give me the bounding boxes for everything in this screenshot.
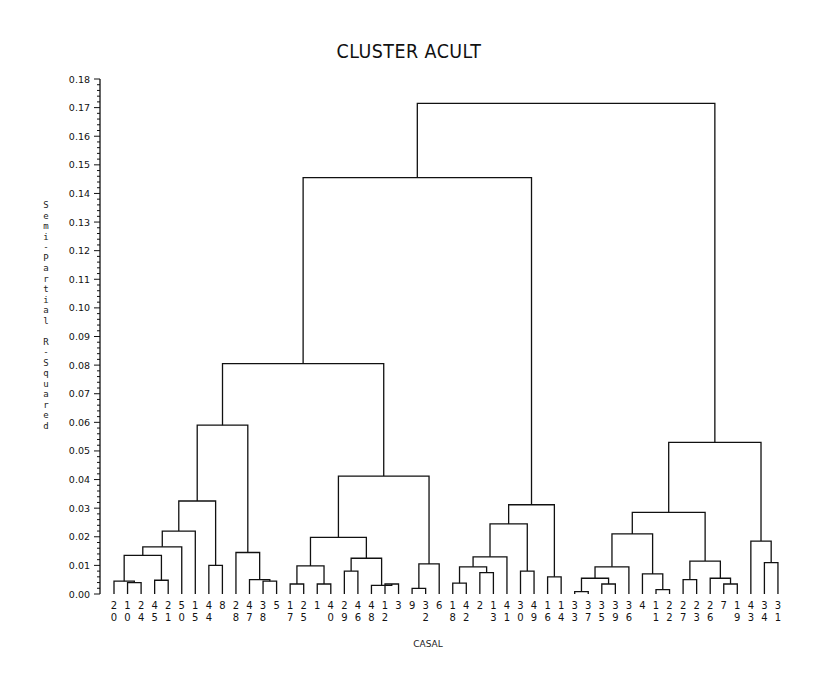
leaf-label: 2	[233, 600, 239, 611]
branch-e5	[656, 590, 670, 594]
branch-c9	[412, 588, 426, 594]
leaf-label: 4	[761, 612, 767, 623]
leaf-label: 4	[463, 600, 469, 611]
branch-g1	[764, 563, 778, 594]
branch-d5	[490, 524, 527, 571]
leaf-label: 8	[368, 612, 374, 623]
branch-c2	[317, 584, 331, 594]
leaf-label: 3	[775, 600, 781, 611]
leaf-label: 3	[490, 612, 496, 623]
branch-a5	[143, 547, 182, 594]
leaf-label: 3	[260, 600, 266, 611]
y-tick-label: 0.17	[69, 102, 90, 113]
leaf-label: 3	[422, 600, 428, 611]
leaf-label: 1	[165, 612, 171, 623]
leaf-label: 6	[544, 612, 550, 623]
leaf-label: 0	[124, 612, 130, 623]
leaf-label: 9	[612, 612, 618, 623]
y-tick-label: 0.01	[69, 560, 90, 571]
y-tick-label: 0.02	[69, 531, 90, 542]
leaf-label: 2	[341, 600, 347, 611]
y-tick-label: 0.16	[69, 131, 90, 142]
branch-a1	[128, 583, 142, 594]
leaf-label: 1	[124, 600, 130, 611]
leaf-label: 4	[748, 600, 754, 611]
leaf-label: 4	[368, 600, 374, 611]
branch-c1	[290, 584, 304, 594]
branch-a7	[209, 565, 223, 594]
leaf-label: 3	[626, 600, 632, 611]
branch-b1	[263, 581, 277, 594]
leaf-label: 4	[328, 600, 334, 611]
leaf-label: 9	[531, 612, 537, 623]
branch-a6	[162, 531, 195, 594]
branch-f2	[724, 584, 738, 594]
leaf-label: 2	[301, 600, 307, 611]
leaf-label: 3	[585, 600, 591, 611]
leaf-label: 2	[477, 600, 483, 611]
leaf-label: 4	[151, 600, 157, 611]
branch-a3	[155, 580, 169, 594]
leaf-label: 4	[246, 600, 252, 611]
leaf-label: 3	[612, 600, 618, 611]
leaf-labels: 2010244521501544828473851725140294648123…	[111, 600, 781, 623]
y-tick-label: 0.07	[69, 388, 90, 399]
leaf-label: 1	[558, 600, 564, 611]
leaf-label: 8	[450, 612, 456, 623]
y-tick-label: 0.13	[69, 217, 90, 228]
leaf-label: 5	[301, 612, 307, 623]
dendrogram-plot: 0.000.010.020.030.040.050.060.070.080.09…	[0, 0, 818, 684]
branch-g2	[751, 541, 771, 594]
leaf-label: 7	[246, 612, 252, 623]
leaf-label: 7	[680, 612, 686, 623]
leaf-label: 6	[707, 612, 713, 623]
leaf-label: 2	[666, 600, 672, 611]
leaf-label: 3	[761, 600, 767, 611]
leaf-label: 3	[599, 600, 605, 611]
leaf-label: 2	[422, 612, 428, 623]
leaf-label: 5	[151, 612, 157, 623]
leaf-label: 2	[707, 600, 713, 611]
leaf-label: 2	[165, 600, 171, 611]
y-tick-label: 0.15	[69, 159, 90, 170]
leaf-label: 1	[192, 600, 198, 611]
leaf-label: 3	[572, 600, 578, 611]
branch-a8	[179, 501, 216, 565]
branch-d6	[548, 577, 562, 594]
leaf-label: 1	[287, 600, 293, 611]
branch-root	[417, 103, 715, 442]
leaf-label: 7	[585, 612, 591, 623]
branch-a4	[124, 555, 161, 581]
leaf-label: 2	[111, 600, 117, 611]
branch-c6	[371, 584, 391, 594]
branch-d2b	[460, 567, 487, 583]
leaf-label: 1	[450, 600, 456, 611]
leaf-label: 8	[233, 612, 239, 623]
leaf-label: 5	[599, 612, 605, 623]
branch-d3	[473, 557, 507, 594]
branch-e2	[602, 584, 616, 594]
leaf-label: 7	[721, 600, 727, 611]
leaf-label: 4	[639, 600, 645, 611]
leaf-label: 1	[734, 600, 740, 611]
leaf-label: 1	[544, 600, 550, 611]
leaf-label: 2	[693, 600, 699, 611]
branch-e4	[595, 567, 629, 594]
y-tick-label: 0.05	[69, 445, 90, 456]
branch-c8	[310, 537, 366, 566]
y-axis: 0.000.010.020.030.040.050.060.070.080.09…	[69, 74, 100, 600]
leaf-label: 3	[395, 600, 401, 611]
leaf-label: 8	[260, 612, 266, 623]
branch-c3	[297, 566, 324, 584]
leaf-label: 5	[179, 600, 185, 611]
y-tick-label: 0.08	[69, 360, 90, 371]
leaf-label: 4	[138, 612, 144, 623]
y-tick-label: 0.04	[69, 474, 90, 485]
leaf-label: 0	[179, 612, 185, 623]
y-tick-label: 0.18	[69, 74, 90, 85]
y-tick-label: 0.11	[69, 274, 90, 285]
leaf-label: 7	[287, 612, 293, 623]
y-tick-label: 0.03	[69, 503, 90, 514]
leaf-label: 0	[517, 612, 523, 623]
leaf-label: 4	[355, 600, 361, 611]
